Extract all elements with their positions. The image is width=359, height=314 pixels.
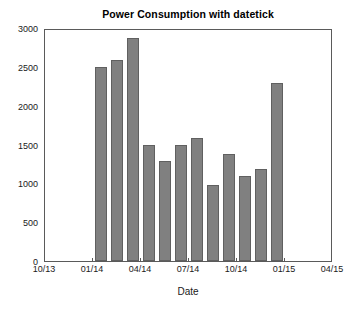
x-axis-tick-mark — [44, 258, 45, 262]
y-axis-tick-labels: 050010001500200025003000 — [0, 29, 38, 262]
y-axis-tick-label: 1000 — [18, 179, 38, 189]
x-axis-tick-labels: 10/1301/1404/1407/1410/1401/1504/15 — [0, 264, 359, 278]
y-axis-tick-label: 2500 — [18, 63, 38, 73]
chart-figure: Power Consumption with datetick 05001000… — [0, 0, 359, 314]
bar — [239, 176, 251, 261]
bar — [111, 60, 123, 261]
y-axis-tick-label: 1500 — [18, 141, 38, 151]
x-axis-tick-mark — [92, 258, 93, 262]
bar — [143, 145, 155, 261]
x-axis-label: Date — [44, 286, 332, 297]
bar — [255, 169, 267, 261]
bar — [127, 38, 139, 261]
x-axis-tick-marks — [44, 258, 332, 263]
x-axis-tick-label: 10/13 — [33, 264, 56, 274]
bar — [95, 67, 107, 261]
y-axis-tick-label: 500 — [23, 218, 38, 228]
x-axis-tick-label: 01/15 — [273, 264, 296, 274]
bar — [207, 185, 219, 262]
bar — [223, 154, 235, 261]
x-axis-tick-label: 07/14 — [177, 264, 200, 274]
x-axis-tick-mark — [331, 258, 332, 262]
bars-layer — [45, 30, 331, 261]
plot-area — [44, 29, 332, 262]
x-axis-tick-label: 01/14 — [81, 264, 104, 274]
bar — [271, 83, 283, 261]
x-axis-tick-label: 04/14 — [129, 264, 152, 274]
chart-title: Power Consumption with datetick — [44, 8, 332, 20]
x-axis-tick-mark — [284, 258, 285, 262]
bar — [175, 145, 187, 261]
y-axis-tick-label: 3000 — [18, 24, 38, 34]
bar — [191, 138, 203, 261]
x-axis-tick-mark — [188, 258, 189, 262]
bar — [159, 161, 171, 261]
x-axis-tick-label: 10/14 — [225, 264, 248, 274]
x-axis-tick-mark — [236, 258, 237, 262]
y-axis-tick-label: 2000 — [18, 102, 38, 112]
x-axis-tick-label: 04/15 — [321, 264, 344, 274]
x-axis-tick-mark — [140, 258, 141, 262]
